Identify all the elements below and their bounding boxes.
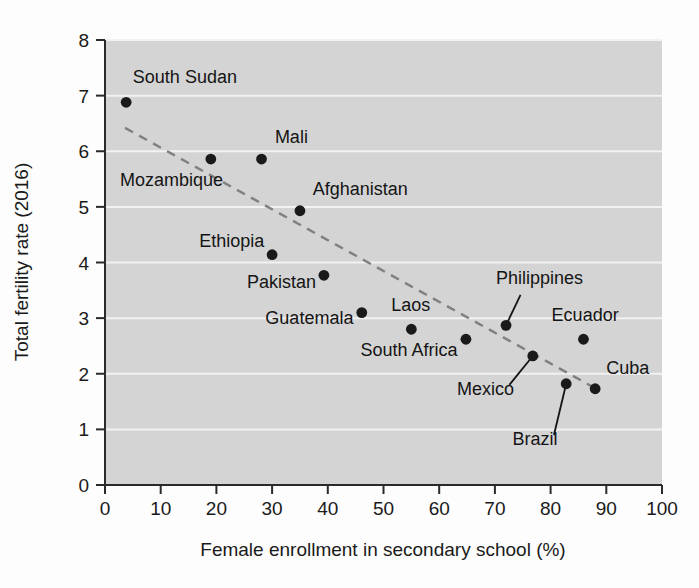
point-label: Mexico xyxy=(457,379,514,399)
y-tick-label: 1 xyxy=(78,419,89,440)
data-point xyxy=(319,270,330,281)
point-label: Ethiopia xyxy=(199,231,265,251)
data-point xyxy=(406,324,417,335)
y-tick-label: 2 xyxy=(78,364,89,385)
x-tick-label: 50 xyxy=(373,498,394,519)
x-tick-label: 40 xyxy=(317,498,338,519)
x-tick-label: 0 xyxy=(100,498,111,519)
point-label: Afghanistan xyxy=(313,179,408,199)
data-point xyxy=(356,307,367,318)
data-point xyxy=(590,383,601,394)
point-label: South Africa xyxy=(361,340,459,360)
x-tick-label: 20 xyxy=(206,498,227,519)
x-tick-label: 60 xyxy=(429,498,450,519)
x-tick-label: 10 xyxy=(150,498,171,519)
x-tick-label: 80 xyxy=(540,498,561,519)
data-point xyxy=(256,154,267,165)
data-point xyxy=(295,205,306,216)
point-label: Brazil xyxy=(512,429,557,449)
data-point xyxy=(561,378,572,389)
point-label: South Sudan xyxy=(133,67,237,87)
chart-canvas: 012345678 0102030405060708090100 South S… xyxy=(0,0,699,588)
scatter-plot-figure: 012345678 0102030405060708090100 South S… xyxy=(0,0,699,588)
x-tick-label: 30 xyxy=(262,498,283,519)
data-point xyxy=(578,334,589,345)
data-point xyxy=(205,154,216,165)
data-point xyxy=(121,97,132,108)
point-label: Laos xyxy=(391,295,430,315)
point-label: Pakistan xyxy=(247,272,316,292)
y-axis-title: Total fertility rate (2016) xyxy=(11,163,32,362)
y-tick-label: 8 xyxy=(78,30,89,51)
point-label: Mozambique xyxy=(120,170,223,190)
y-tick-label: 4 xyxy=(78,253,89,274)
data-point xyxy=(527,351,538,362)
y-tick-label: 0 xyxy=(78,475,89,496)
data-point xyxy=(501,320,512,331)
x-axis: 0102030405060708090100 xyxy=(100,485,678,519)
data-point xyxy=(461,334,472,345)
y-axis: 012345678 xyxy=(78,30,105,496)
x-axis-title: Female enrollment in secondary school (%… xyxy=(200,539,565,560)
x-tick-label: 100 xyxy=(646,498,678,519)
point-label: Mali xyxy=(275,127,308,147)
point-label: Cuba xyxy=(606,358,650,378)
y-tick-label: 5 xyxy=(78,197,89,218)
data-point xyxy=(267,249,278,260)
point-label: Philippines xyxy=(496,268,583,288)
x-tick-label: 90 xyxy=(596,498,617,519)
y-tick-label: 3 xyxy=(78,308,89,329)
point-label: Ecuador xyxy=(552,305,619,325)
y-tick-label: 6 xyxy=(78,141,89,162)
point-label: Guatemala xyxy=(265,308,354,328)
x-tick-label: 70 xyxy=(484,498,505,519)
y-tick-label: 7 xyxy=(78,86,89,107)
